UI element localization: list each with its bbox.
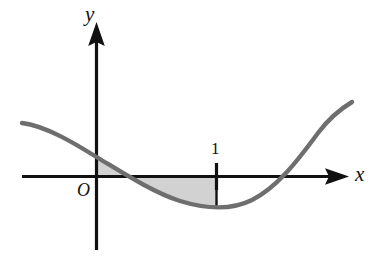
y-axis-label: y (85, 4, 94, 25)
x-axis-label: x (355, 164, 364, 185)
coordinate-plot (0, 0, 381, 256)
x-tick-label-one: 1 (211, 140, 220, 157)
origin-label: O (77, 181, 90, 199)
figure-container: y x O 1 (0, 0, 381, 256)
shaded-region-below-axis (130, 177, 217, 207)
